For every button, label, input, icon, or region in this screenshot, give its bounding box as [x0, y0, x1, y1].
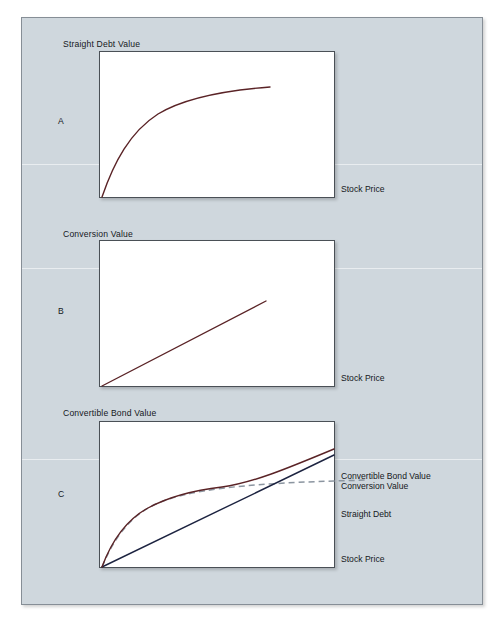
panel-c-x-axis-label: Stock Price [341, 554, 384, 564]
panel-a-x-axis-label: Stock Price [341, 184, 384, 194]
series-conversion-value [102, 455, 334, 567]
panel-b-letter: B [58, 306, 64, 316]
legend-label-straight-debt: Straight Debt [341, 509, 391, 520]
panel-c-letter: C [58, 489, 64, 499]
series-convertible-bond-value [102, 449, 334, 567]
panel-b-title: Conversion Value [63, 229, 133, 239]
panel-a-plot-area [99, 51, 335, 198]
panel-a-letter: A [58, 116, 64, 126]
panel-c-chart [100, 422, 336, 569]
series-straight-debt [102, 480, 368, 567]
figure-frame: Straight Debt Value A Stock Price Conver… [21, 17, 483, 605]
series-conversion-value [102, 301, 266, 386]
panel-a-chart [100, 52, 336, 199]
panel-b-chart [100, 241, 336, 388]
panel-b-plot-area [99, 240, 335, 387]
panel-c-plot-area [99, 421, 335, 568]
panel-b-x-axis-label: Stock Price [341, 373, 384, 383]
panel-a-title: Straight Debt Value [63, 39, 140, 49]
legend-label-convertible-bond-value: Convertible Bond Value [341, 471, 431, 482]
series-straight-debt-value [102, 87, 270, 197]
panel-c-title: Convertible Bond Value [63, 408, 156, 418]
legend-label-conversion-value: Conversion Value [341, 481, 408, 492]
